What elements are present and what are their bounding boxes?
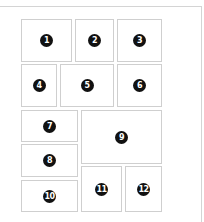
panel-5: 5 — [60, 64, 114, 107]
panel-12: 12 — [125, 166, 162, 212]
number-badge: 10 — [43, 190, 56, 203]
panel-8: 8 — [21, 144, 78, 177]
number-badge: 12 — [137, 183, 150, 196]
number-badge: 9 — [115, 131, 128, 144]
frame-top-border — [0, 6, 202, 7]
number-badge: 11 — [95, 183, 108, 196]
number-badge: 5 — [81, 79, 94, 92]
number-badge: 2 — [88, 34, 101, 47]
panel-4: 4 — [21, 64, 57, 107]
panel-3: 3 — [117, 19, 162, 62]
number-badge: 8 — [43, 154, 56, 167]
panel-2: 2 — [75, 19, 114, 62]
panel-1: 1 — [21, 19, 72, 62]
number-badge: 6 — [133, 79, 146, 92]
panel-7: 7 — [21, 110, 78, 142]
panel-9: 9 — [81, 110, 162, 164]
panel-6: 6 — [117, 64, 162, 107]
number-badge: 7 — [43, 120, 56, 133]
panel-11: 11 — [81, 166, 122, 212]
panel-10: 10 — [21, 180, 78, 212]
number-badge: 3 — [133, 34, 146, 47]
frame-right-border — [201, 6, 202, 222]
number-badge: 1 — [40, 34, 53, 47]
number-badge: 4 — [33, 79, 46, 92]
